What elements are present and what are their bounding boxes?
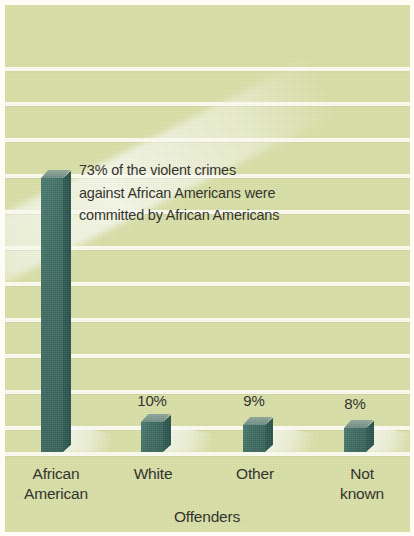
bar-other[interactable] xyxy=(243,417,265,452)
bar-front-face-african-american xyxy=(41,178,63,452)
bar-front-face-other xyxy=(243,425,265,452)
gridline-baseline xyxy=(5,452,410,456)
bar-side-face-other xyxy=(265,418,273,452)
plate-edge-left xyxy=(0,0,5,536)
category-label-line1-other: Other xyxy=(222,464,288,484)
bar-african-american[interactable] xyxy=(41,170,63,452)
bar-side-face-not-known xyxy=(366,421,374,452)
category-label-line1-african-american: African xyxy=(6,464,106,484)
category-label-line1-white: White xyxy=(120,464,186,484)
category-label-white: White xyxy=(120,464,186,484)
plate-edge-top xyxy=(0,0,414,5)
gridline-2 xyxy=(5,102,410,106)
bar-side-face-african-american xyxy=(63,171,71,452)
chart-container: 73% of the violent crimes against Africa… xyxy=(0,0,414,536)
bar-white[interactable] xyxy=(141,414,163,452)
annotation-line-1: 73% of the violent crimes xyxy=(79,159,379,182)
bar-front-face-not-known xyxy=(344,428,366,452)
chart-annotation: 73% of the violent crimes against Africa… xyxy=(79,159,379,227)
plate-edge-bottom xyxy=(0,532,414,536)
bar-front-face-white xyxy=(141,422,163,452)
category-label-line2-african-american: American xyxy=(6,484,106,504)
bar-not-known[interactable] xyxy=(344,420,366,452)
value-label-white: 10% xyxy=(122,392,182,409)
annotation-line-3: committed by African Americans xyxy=(79,204,379,227)
category-label-other: Other xyxy=(222,464,288,484)
bar-side-face-white xyxy=(163,415,171,452)
category-label-not-known: Not known xyxy=(322,464,402,504)
value-label-other: 9% xyxy=(224,392,284,409)
category-label-african-american: African American xyxy=(6,464,106,504)
category-label-line2-not-known: known xyxy=(322,484,402,504)
gridline-1 xyxy=(5,67,410,71)
gridline-3 xyxy=(5,138,410,142)
annotation-line-2: against African Americans were xyxy=(79,182,379,205)
category-label-line1-not-known: Not xyxy=(322,464,402,484)
plate-edge-right xyxy=(410,0,414,536)
x-axis-title: Offenders xyxy=(0,508,414,526)
value-label-not-known: 8% xyxy=(325,395,385,412)
